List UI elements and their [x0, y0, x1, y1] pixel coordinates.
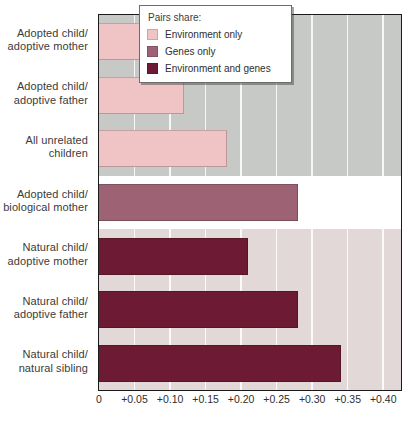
legend-item-label: Environment and genes: [165, 63, 271, 75]
gridline: [347, 15, 349, 390]
x-tick-label: +0.40: [370, 393, 397, 405]
y-axis-category-labels: Adopted child/adoptive motherAdopted chi…: [0, 14, 94, 391]
y-category-label: Adopted child/adoptive mother: [0, 27, 88, 54]
y-category-label-line2: adoptive mother: [0, 40, 88, 54]
y-category-label-line1: Adopted child/: [0, 27, 88, 41]
x-tick-label: 0: [96, 393, 102, 405]
legend-item-label: Environment only: [165, 29, 242, 41]
chart-legend: Pairs share: Environment onlyGenes onlyE…: [139, 5, 292, 83]
y-category-label: Adopted child/biological mother: [0, 188, 88, 215]
y-category-label-line1: Adopted child/: [0, 188, 88, 202]
bar: [99, 130, 227, 167]
y-category-label: All unrelatedchildren: [0, 134, 88, 161]
x-tick-label: +0.20: [228, 393, 255, 405]
y-category-label-line1: Natural child/: [0, 295, 88, 309]
legend-item: Genes only: [147, 45, 284, 58]
y-category-label-line1: All unrelated: [0, 134, 88, 148]
y-category-label-line2: adoptive father: [0, 94, 88, 108]
bar: [99, 291, 298, 328]
y-category-label-line2: natural sibling: [0, 362, 88, 376]
y-category-label-line2: biological mother: [0, 201, 88, 215]
x-tick-label: +0.10: [157, 393, 184, 405]
y-category-label-line1: Natural child/: [0, 241, 88, 255]
x-tick-label: +0.30: [299, 393, 326, 405]
legend-item: Environment only: [147, 28, 284, 41]
legend-swatch: [147, 29, 158, 40]
y-category-label: Natural child/adoptive father: [0, 295, 88, 322]
bar: [99, 345, 341, 382]
x-tick-label: +0.25: [263, 393, 290, 405]
x-tick-label: +0.15: [192, 393, 219, 405]
y-category-label: Adopted child/adoptive father: [0, 80, 88, 107]
x-tick-label: +0.05: [121, 393, 148, 405]
legend-item: Environment and genes: [147, 62, 284, 75]
y-category-label-line2: adoptive mother: [0, 255, 88, 269]
gridline: [311, 15, 313, 390]
y-category-label-line1: Adopted child/: [0, 80, 88, 94]
chart-figure: Adopted child/adoptive motherAdopted chi…: [0, 0, 410, 430]
legend-item-label: Genes only: [165, 46, 216, 58]
bar: [99, 184, 298, 221]
gridline: [382, 15, 384, 390]
y-category-label: Natural child/adoptive mother: [0, 241, 88, 268]
bar: [99, 238, 248, 275]
legend-swatch: [147, 63, 158, 74]
y-category-label: Natural child/natural sibling: [0, 348, 88, 375]
legend-items: Environment onlyGenes onlyEnvironment an…: [147, 28, 284, 75]
x-tick-label: +0.35: [334, 393, 361, 405]
legend-title: Pairs share:: [148, 12, 284, 24]
y-category-label-line2: adoptive father: [0, 308, 88, 322]
y-category-label-line1: Natural child/: [0, 348, 88, 362]
x-axis-tick-labels: 0+0.05+0.10+0.15+0.20+0.25+0.30+0.35+0.4…: [98, 393, 402, 411]
legend-swatch: [147, 46, 158, 57]
y-category-label-line2: children: [0, 147, 88, 161]
